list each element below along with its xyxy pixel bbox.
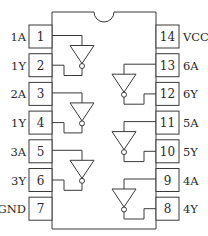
pin-number: 7 xyxy=(37,202,45,216)
pin-number: 1 xyxy=(37,30,45,44)
input-wire xyxy=(52,36,82,46)
input-wire xyxy=(124,179,156,189)
output-wire xyxy=(124,209,156,219)
pin-10: 105Y xyxy=(156,140,198,163)
input-wire xyxy=(124,122,156,132)
pin-label: 1Y xyxy=(11,116,26,130)
pin-label: 3Y xyxy=(11,174,26,188)
left-pins: 11A21Y32A41Y53A63Y7GND xyxy=(0,25,52,220)
pin-number: 12 xyxy=(160,87,175,101)
pin-number: 11 xyxy=(160,116,175,130)
pin-14: 14VCC xyxy=(156,25,208,48)
pin-number: 13 xyxy=(160,59,175,73)
pin-label: 3A xyxy=(10,145,26,159)
right-pins: 14VCC136A126Y115A105Y94A84Y xyxy=(156,25,208,220)
output-wire xyxy=(124,151,156,161)
input-wire xyxy=(124,64,156,74)
pin-2: 21Y xyxy=(11,54,52,77)
pin-number: 9 xyxy=(164,174,172,188)
inverter-triangle-icon xyxy=(70,160,94,178)
ic-pinout-diagram: 11A21Y32A41Y53A63Y7GND 14VCC136A126Y115A… xyxy=(0,0,208,236)
pin-number: 10 xyxy=(160,145,175,159)
pin-label: GND xyxy=(0,202,26,216)
inverter-3 xyxy=(52,150,94,190)
pin-label: 5A xyxy=(183,116,199,130)
pin-13: 136A xyxy=(156,54,199,77)
inverter-triangle-icon xyxy=(70,103,94,121)
inverter-1 xyxy=(52,36,94,76)
pin-label: 1A xyxy=(10,30,26,44)
pin-7: 7GND xyxy=(0,197,52,220)
pin-5: 53A xyxy=(10,140,52,163)
ic-body xyxy=(52,12,156,229)
pin-3: 32A xyxy=(10,82,52,105)
pin-label: 6Y xyxy=(183,87,198,101)
pin-11: 115A xyxy=(156,111,199,134)
output-wire xyxy=(52,65,82,75)
inverter-triangle-icon xyxy=(112,189,136,207)
inverter-2 xyxy=(52,93,94,133)
pin-label: 4Y xyxy=(183,202,198,216)
pin-label: 2A xyxy=(10,87,26,101)
pin-label: 6A xyxy=(183,59,199,73)
pin-12: 126Y xyxy=(156,82,198,105)
pin-number: 3 xyxy=(37,87,45,101)
pin-4: 41Y xyxy=(11,111,52,134)
inverter-triangle-icon xyxy=(112,132,136,150)
pin-label: 5Y xyxy=(183,145,198,159)
pin-number: 2 xyxy=(37,59,45,73)
pin-label: 1Y xyxy=(11,59,26,73)
pin-label: VCC xyxy=(182,30,208,44)
pin-number: 14 xyxy=(160,30,176,44)
pin-1: 11A xyxy=(10,25,52,48)
input-wire xyxy=(52,150,82,160)
pin-6: 63Y xyxy=(11,169,52,192)
inverter-triangle-icon xyxy=(112,74,136,92)
pin-label: 4A xyxy=(183,174,199,188)
pin-number: 4 xyxy=(37,116,45,130)
pin-9: 94A xyxy=(156,169,199,192)
pin-8: 84Y xyxy=(156,197,198,220)
inverter-gates xyxy=(52,36,156,220)
inverter-4 xyxy=(112,179,156,219)
inverter-triangle-icon xyxy=(70,46,94,64)
pin-number: 6 xyxy=(37,174,45,188)
inverter-5 xyxy=(112,122,156,162)
inverter-6 xyxy=(112,64,156,104)
output-wire xyxy=(124,94,156,104)
pin-number: 5 xyxy=(37,145,45,159)
input-wire xyxy=(52,93,82,103)
output-wire xyxy=(52,123,82,133)
pin-number: 8 xyxy=(164,202,172,216)
output-wire xyxy=(52,180,82,190)
